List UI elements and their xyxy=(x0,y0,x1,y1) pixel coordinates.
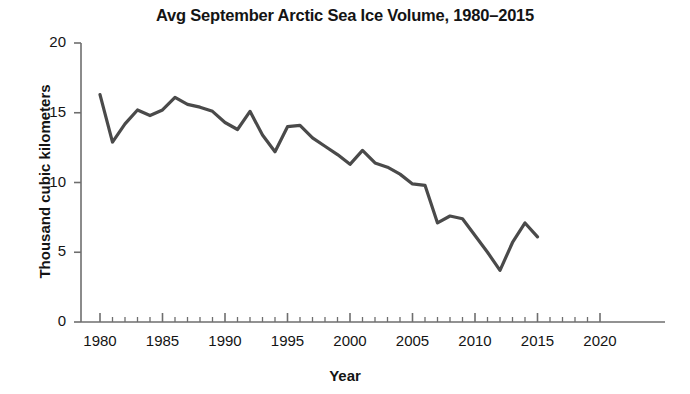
x-tick-label: 2015 xyxy=(508,332,568,349)
y-tick-label: 0 xyxy=(26,312,66,329)
y-tick-label: 15 xyxy=(26,103,66,120)
x-tick-label: 2010 xyxy=(445,332,505,349)
x-tick-label: 2005 xyxy=(383,332,443,349)
chart-figure: Avg September Arctic Sea Ice Volume, 198… xyxy=(0,0,690,394)
x-tick-label: 1980 xyxy=(70,332,130,349)
y-tick-label: 10 xyxy=(26,173,66,190)
x-tick-label: 1995 xyxy=(258,332,318,349)
y-tick-label: 20 xyxy=(26,33,66,50)
x-tick-label: 1985 xyxy=(133,332,193,349)
x-tick-label: 2020 xyxy=(570,332,630,349)
y-tick-label: 5 xyxy=(26,242,66,259)
x-tick-label: 1990 xyxy=(195,332,255,349)
y-axis-ticks xyxy=(74,43,81,322)
x-tick-label: 2000 xyxy=(320,332,380,349)
ice-volume-line xyxy=(100,95,538,271)
axis-lines xyxy=(81,43,665,322)
